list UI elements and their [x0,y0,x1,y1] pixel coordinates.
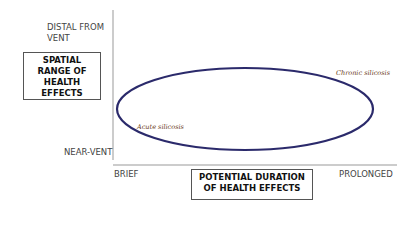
x-axis-left-label: BRIEF [114,169,139,180]
x-axis-right-label: PROLONGED [339,169,393,180]
x-axis-title-box: POTENTIAL DURATION OF HEALTH EFFECTS [191,169,313,200]
y-axis-title-line-1: SPATIAL [24,55,100,66]
y-axis-top-label: DISTAL FROM VENT [47,22,104,44]
x-axis-title-line-1: POTENTIAL DURATION [192,172,312,183]
effects-ellipse [117,68,373,150]
y-axis-top-label-line-1: DISTAL FROM [47,22,104,33]
y-axis-title-box: SPATIAL RANGE OF HEALTH EFFECTS [23,52,101,100]
acute-silicosis-label: Acute silicosis [137,123,184,131]
x-axis-title-line-2: OF HEALTH EFFECTS [192,183,312,194]
y-axis-title-line-4: EFFECTS [24,88,100,99]
y-axis-title-line-3: HEALTH [24,77,100,88]
chronic-silicosis-label: Chronic silicosis [336,69,390,77]
y-axis-title-line-2: RANGE OF [24,66,100,77]
y-axis-top-label-line-2: VENT [47,33,104,44]
y-axis-bottom-label: NEAR-VENT [64,147,112,158]
